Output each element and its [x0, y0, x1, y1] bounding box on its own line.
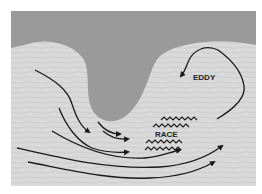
race-label: RACE: [155, 130, 178, 139]
tidal-race-diagram: RACE EDDY: [0, 0, 262, 194]
eddy-label: EDDY: [193, 73, 216, 82]
